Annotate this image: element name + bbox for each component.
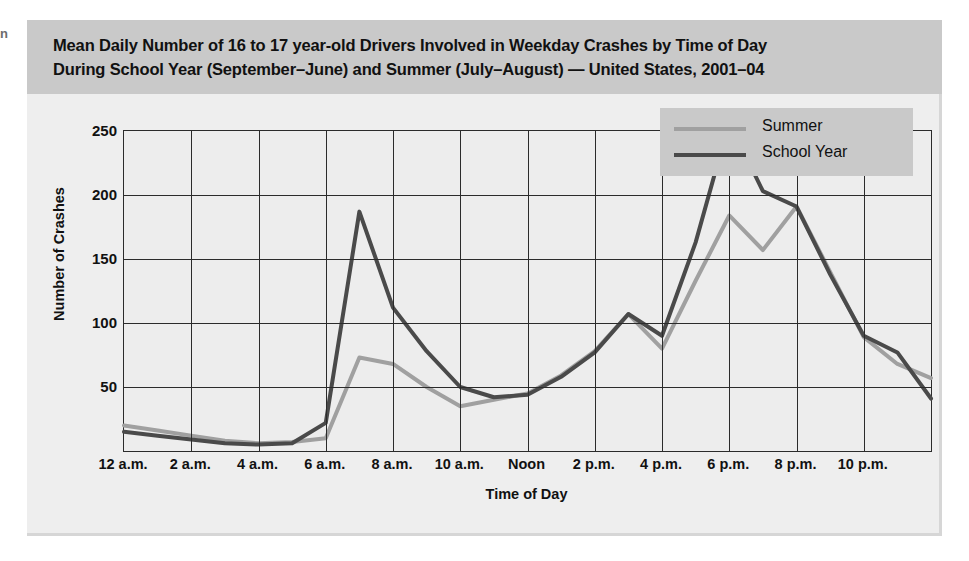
figure-title-line-1: Mean Daily Number of 16 to 17 year-old D…: [53, 36, 767, 55]
gridline-vertical: [326, 131, 327, 451]
legend-label-summer: Summer: [762, 117, 822, 135]
x-axis-tick-labels: 12 a.m.2 a.m.4 a.m.6 a.m.8 a.m.10 a.m.No…: [123, 456, 930, 480]
legend-swatch-school-year: [674, 153, 746, 157]
chart-legend: Summer School Year: [660, 108, 913, 176]
y-axis-tick-label: 200: [71, 186, 117, 203]
gridline-vertical: [797, 131, 798, 451]
x-axis-tick-label: 10 p.m.: [818, 456, 908, 472]
gridline-vertical: [191, 131, 192, 451]
gridline-vertical: [864, 131, 865, 451]
gridline-vertical: [393, 131, 394, 451]
y-axis-tick-label: 50: [71, 378, 117, 395]
figure-panel: Mean Daily Number of 16 to 17 year-old D…: [27, 20, 942, 536]
gridline-vertical: [528, 131, 529, 451]
figure-title-band: Mean Daily Number of 16 to 17 year-old D…: [27, 20, 942, 94]
plot-area: [123, 130, 932, 452]
x-axis-title: Time of Day: [123, 486, 930, 502]
gridline-vertical: [729, 131, 730, 451]
margin-cutoff-text: n: [0, 26, 24, 41]
y-axis-tick-label: 100: [71, 314, 117, 331]
y-axis-tick-labels: 50100150200250: [61, 130, 117, 450]
gridline-vertical: [595, 131, 596, 451]
y-axis-tick-label: 250: [71, 122, 117, 139]
gridline-vertical: [662, 131, 663, 451]
legend-label-school-year: School Year: [762, 143, 847, 161]
gridline-vertical: [460, 131, 461, 451]
legend-swatch-summer: [674, 127, 746, 131]
gridline-vertical: [259, 131, 260, 451]
plot-wrapper: Number of Crashes 50100150200250 12 a.m.…: [27, 94, 942, 536]
y-axis-tick-label: 150: [71, 250, 117, 267]
figure-title-line-2: During School Year (September–June) and …: [53, 60, 764, 79]
